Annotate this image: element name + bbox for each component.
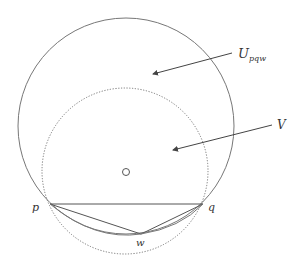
segment-wq: [141, 204, 203, 234]
label-w: w: [136, 237, 145, 248]
circle-u-pqw: [18, 18, 234, 234]
label-q: q: [208, 201, 215, 214]
label-u: Upqw: [238, 46, 266, 63]
label-v: V: [277, 118, 287, 132]
geometry-diagram: Upqw V p q w: [0, 0, 297, 266]
label-p: p: [32, 201, 39, 214]
arrow-v: [173, 125, 272, 150]
arrow-u: [153, 53, 232, 74]
center-point-icon: [123, 169, 130, 176]
